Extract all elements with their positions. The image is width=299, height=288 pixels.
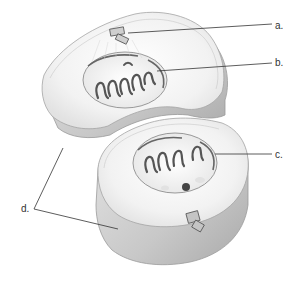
label-d: d.	[21, 204, 29, 214]
diagram-stage: a. b. c. d.	[0, 0, 299, 288]
lower-nucleus	[133, 133, 217, 193]
label-c: c.	[275, 150, 283, 160]
nucleolus	[182, 183, 190, 191]
label-a: a.	[275, 21, 283, 31]
label-b: b.	[275, 58, 283, 68]
upper-nucleus	[83, 52, 167, 108]
cell-division-illustration	[0, 0, 299, 288]
